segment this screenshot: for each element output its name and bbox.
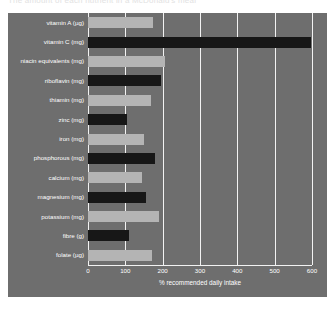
- x-axis-title: % recommended daily intake: [88, 279, 312, 286]
- category-label: niacin equivalents (mg): [8, 57, 84, 65]
- bar: [88, 134, 144, 145]
- category-label: thiamin (mg): [8, 96, 84, 104]
- chart-panel: vitamin A (µg)vitamin C (mg)niacin equiv…: [8, 13, 327, 297]
- x-tick-label: 500: [269, 267, 279, 274]
- category-label: riboflavin (mg): [8, 77, 84, 85]
- bar: [88, 172, 142, 183]
- page-title: The amount of each nutrient in a McDonal…: [8, 0, 196, 5]
- bar: [88, 37, 311, 48]
- bar: [88, 56, 165, 67]
- bar: [88, 75, 161, 86]
- bar: [88, 211, 159, 222]
- x-tick-label: 600: [307, 267, 317, 274]
- x-tick-label: 200: [157, 267, 167, 274]
- gridline-600: [312, 13, 313, 265]
- plot-area: [88, 13, 312, 265]
- category-label: phosphorous (mg): [8, 154, 84, 162]
- gridline-400: [237, 13, 238, 265]
- bar: [88, 250, 152, 261]
- category-label: potassium (mg): [8, 213, 84, 221]
- category-label: calcium (mg): [8, 174, 84, 182]
- bar: [88, 153, 155, 164]
- x-tick-label: 300: [195, 267, 205, 274]
- category-label: vitamin C (mg): [8, 38, 84, 46]
- x-tick-label: 0: [86, 267, 89, 274]
- category-axis-labels: vitamin A (µg)vitamin C (mg)niacin equiv…: [8, 13, 88, 265]
- x-axis-line: [88, 265, 312, 266]
- bar: [88, 17, 153, 28]
- category-label: fibre (g): [8, 232, 84, 240]
- bar: [88, 95, 151, 106]
- bar: [88, 114, 127, 125]
- category-label: magnesium (mg): [8, 193, 84, 201]
- bar: [88, 192, 146, 203]
- x-tick-label: 100: [120, 267, 130, 274]
- gridline-300: [200, 13, 201, 265]
- x-tick-label: 400: [232, 267, 242, 274]
- category-label: vitamin A (µg): [8, 19, 84, 27]
- bar: [88, 230, 129, 241]
- cropped-title-strip: The amount of each nutrient in a McDonal…: [0, 0, 335, 13]
- gridline-500: [275, 13, 276, 265]
- gridline-200: [163, 13, 164, 265]
- category-label: folate (µg): [8, 251, 84, 259]
- category-label: zinc (mg): [8, 116, 84, 124]
- chart-page: The amount of each nutrient in a McDonal…: [0, 0, 335, 311]
- category-label: iron (mg): [8, 135, 84, 143]
